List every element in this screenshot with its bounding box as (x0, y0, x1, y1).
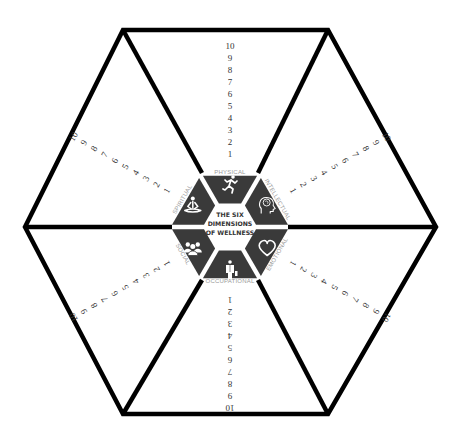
scale-value[interactable]: 10 (225, 403, 235, 413)
title-line-1: THE SIX (216, 211, 244, 218)
scale-value[interactable]: 8 (360, 301, 371, 310)
scale-value[interactable]: 7 (99, 150, 110, 159)
spoke-top-left (123, 30, 202, 173)
scale-spiritual: 12345678910 (67, 130, 173, 195)
spoke-top-right (258, 30, 328, 173)
label-physical: PHYSICAL (214, 169, 246, 175)
scale-value[interactable]: 4 (228, 113, 233, 123)
scale-value[interactable]: 7 (350, 150, 361, 159)
scale-value[interactable]: 5 (228, 101, 233, 111)
scale-value[interactable]: 7 (228, 77, 233, 87)
scale-value[interactable]: 9 (78, 307, 89, 316)
scale-value[interactable]: 2 (151, 265, 162, 274)
scale-value[interactable]: 5 (227, 343, 232, 353)
scale-value[interactable]: 2 (228, 307, 233, 317)
scale-value[interactable]: 8 (227, 379, 232, 389)
scale-value[interactable]: 4 (227, 331, 232, 341)
label-occupational: OCCUPATIONAL (206, 278, 255, 284)
scale-value[interactable]: 4 (130, 277, 141, 286)
scale-value[interactable]: 5 (329, 283, 340, 292)
scale-value[interactable]: 10 (226, 41, 236, 51)
center-title: THE SIX DIMENSIONS OF WELLNESS (206, 211, 255, 236)
scale-value[interactable]: 5 (120, 162, 131, 171)
scale-social: 12345678910 (66, 259, 172, 324)
scale-value[interactable]: 6 (340, 156, 351, 165)
scale-value[interactable]: 8 (88, 301, 99, 310)
scale-value[interactable]: 1 (288, 259, 299, 268)
scale-value[interactable]: 2 (151, 180, 162, 189)
scale-value[interactable]: 7 (350, 295, 361, 304)
scale-value[interactable]: 6 (109, 289, 120, 298)
scale-value[interactable]: 9 (228, 53, 233, 63)
scale-value[interactable]: 4 (319, 277, 330, 286)
scale-value[interactable]: 6 (339, 289, 350, 298)
scale-value[interactable]: 1 (228, 149, 233, 159)
scale-value[interactable]: 9 (227, 391, 232, 401)
spoke-bottom-right (258, 280, 328, 414)
scale-value[interactable]: 1 (161, 186, 172, 195)
scale-intellectual: 12345678910 (288, 130, 394, 195)
scale-value[interactable]: 3 (228, 125, 233, 135)
scale-value[interactable]: 6 (109, 156, 120, 165)
title-line-3: OF WELLNESS (206, 229, 255, 236)
scale-value[interactable]: 3 (308, 174, 319, 183)
wellness-wheel-diagram: PHYSICALINTELLECTUALEMOTIONALOCCUPATIONA… (0, 0, 459, 442)
scale-value[interactable]: 9 (78, 138, 89, 147)
scale-value[interactable]: 7 (99, 295, 110, 304)
scale-occupational: 12345678910 (225, 295, 235, 413)
spoke-bottom-left (123, 280, 202, 414)
scale-value[interactable]: 8 (360, 144, 371, 153)
scale-value[interactable]: 2 (228, 137, 233, 147)
scale-value[interactable]: 4 (130, 168, 141, 177)
scale-value[interactable]: 3 (140, 271, 151, 280)
scale-value[interactable]: 7 (227, 367, 232, 377)
scale-value[interactable]: 9 (371, 138, 382, 147)
scale-value[interactable]: 5 (329, 162, 340, 171)
title-line-2: DIMENSIONS (208, 220, 253, 227)
scale-physical: 12345678910 (226, 41, 236, 159)
scale-value[interactable]: 8 (228, 65, 233, 75)
scale-value[interactable]: 8 (89, 144, 100, 153)
scale-value[interactable]: 6 (227, 355, 232, 365)
scale-value[interactable]: 1 (161, 259, 172, 268)
scale-value[interactable]: 1 (288, 186, 299, 195)
scale-value[interactable]: 3 (308, 271, 319, 280)
scale-value[interactable]: 5 (120, 283, 131, 292)
scale-value[interactable]: 6 (228, 89, 233, 99)
scale-value[interactable]: 9 (371, 307, 382, 316)
scale-value[interactable]: 3 (227, 319, 232, 329)
scale-value[interactable]: 3 (141, 174, 152, 183)
scale-value[interactable]: 2 (298, 180, 309, 189)
scale-emotional: 12345678910 (288, 259, 394, 324)
scale-value[interactable]: 1 (228, 295, 233, 305)
scale-value[interactable]: 2 (298, 265, 309, 274)
scale-value[interactable]: 4 (319, 168, 330, 177)
